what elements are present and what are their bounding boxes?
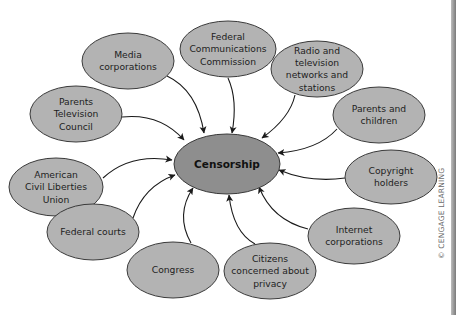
- node-label: Federal: [211, 31, 245, 42]
- node-label: Copyright: [369, 165, 414, 176]
- node-label: Commission: [200, 56, 256, 67]
- arrow-copyright-holders-to-censorship: [279, 170, 345, 179]
- node-label: Union: [43, 194, 70, 205]
- node-label: privacy: [253, 278, 287, 289]
- node-label: Parents: [59, 96, 93, 107]
- center-label: Censorship: [194, 158, 260, 170]
- page-edge-bar: [451, 0, 456, 315]
- arrow-aclu-to-censorship: [103, 158, 172, 178]
- node-radio-tv: Radio andtelevisionnetworks andstations: [271, 41, 363, 97]
- node-label: corporations: [325, 236, 383, 247]
- arrow-congress-to-censorship: [183, 188, 193, 243]
- copyright-credit: © CENGAGE LEARNING: [437, 168, 446, 259]
- arrow-radio-tv-to-censorship: [262, 95, 295, 138]
- arrow-parents-tv-council-to-censorship: [122, 116, 184, 140]
- node-label: children: [361, 115, 398, 126]
- node-label: Federal courts: [60, 226, 126, 237]
- censorship-stakeholder-diagram: MediacorporationsFederalCommunicationsCo…: [0, 0, 456, 315]
- node-citizens-privacy: Citizensconcerned aboutprivacy: [224, 243, 316, 299]
- node-fcc: FederalCommunicationsCommission: [180, 21, 276, 77]
- arrow-citizens-privacy-to-censorship: [229, 195, 255, 244]
- node-federal-courts: Federal courts: [47, 204, 139, 260]
- node-media-corporations: Mediacorporations: [82, 33, 174, 89]
- node-label: Media: [114, 49, 142, 60]
- node-label: Television: [53, 108, 99, 119]
- node-label: Citizens: [252, 253, 288, 264]
- node-label: networks and: [286, 69, 348, 80]
- node-label: corporations: [99, 61, 157, 72]
- node-label: Internet: [336, 224, 373, 235]
- node-label: Council: [59, 121, 93, 132]
- node-label: American: [34, 169, 78, 180]
- center-node: Censorship: [174, 134, 280, 194]
- node-label: Civil Liberties: [25, 181, 87, 192]
- node-label: holders: [374, 177, 408, 188]
- node-label: concerned about: [231, 265, 309, 276]
- node-parents-children: Parents andchildren: [333, 87, 425, 143]
- node-parents-tv-council: ParentsTelevisionCouncil: [30, 86, 122, 142]
- node-label: Communications: [189, 43, 266, 54]
- node-congress: Congress: [127, 242, 219, 298]
- node-label: Parents and: [352, 103, 406, 114]
- node-label: television: [295, 57, 339, 68]
- arrow-parents-children-to-censorship: [278, 129, 337, 153]
- arrow-media-corporations-to-censorship: [167, 76, 204, 133]
- node-internet-corporations: Internetcorporations: [308, 208, 400, 264]
- arrow-fcc-to-censorship: [228, 78, 234, 133]
- arrow-federal-courts-to-censorship: [133, 175, 175, 218]
- arrow-internet-corporations-to-censorship: [259, 187, 308, 229]
- node-copyright-holders: Copyrightholders: [345, 150, 437, 204]
- node-label: Congress: [152, 264, 195, 275]
- node-label: Radio and: [294, 45, 340, 56]
- node-label: stations: [299, 82, 336, 93]
